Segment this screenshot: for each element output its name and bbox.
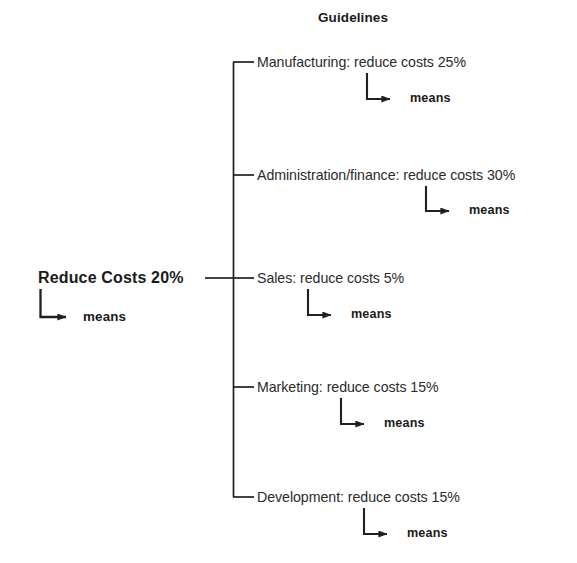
- branch-means-label-marketing: means: [384, 417, 425, 430]
- means-elbow-arrow-3: [308, 289, 331, 315]
- means-elbow-arrow-5: [364, 508, 387, 534]
- means-elbow-arrow-4: [341, 398, 364, 424]
- branch-label-marketing: Marketing: reduce costs 15%: [257, 380, 439, 394]
- branch-means-label-development: means: [407, 527, 448, 540]
- branch-means-label-sales: means: [351, 308, 392, 321]
- root-node-label: Reduce Costs 20%: [38, 270, 184, 286]
- diagram-canvas: Guidelines Reduce Costs 20% means Manufa…: [0, 0, 577, 563]
- branch-means-label-manufacturing: means: [410, 92, 451, 105]
- branch-label-development: Development: reduce costs 15%: [257, 490, 460, 504]
- branch-means-label-administration-finance: means: [469, 204, 510, 217]
- means-elbow-arrow-1: [367, 73, 390, 99]
- diagram-title: Guidelines: [318, 11, 388, 25]
- root-means-label: means: [83, 310, 126, 323]
- means-elbow-arrow-2: [426, 186, 449, 211]
- means-elbow-arrow-root: [41, 289, 67, 317]
- branch-label-manufacturing: Manufacturing: reduce costs 25%: [257, 55, 466, 69]
- branch-label-administration-finance: Administration/finance: reduce costs 30%: [257, 168, 515, 182]
- branch-label-sales: Sales: reduce costs 5%: [257, 271, 404, 285]
